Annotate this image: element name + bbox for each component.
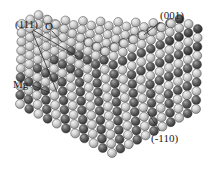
oxygen-sphere bbox=[98, 144, 107, 153]
magnesium-sphere bbox=[121, 103, 130, 112]
magnesium-sphere bbox=[174, 59, 183, 68]
magnesium-sphere bbox=[118, 48, 127, 57]
magnesium-sphere bbox=[193, 51, 202, 60]
oxygen-sphere bbox=[165, 54, 174, 63]
oxygen-sphere bbox=[148, 108, 157, 117]
oxygen-sphere bbox=[193, 42, 202, 51]
oxygen-sphere bbox=[146, 89, 155, 98]
magnesium-sphere bbox=[104, 22, 113, 31]
magnesium-sphere bbox=[148, 27, 157, 36]
oxygen-sphere bbox=[155, 58, 164, 67]
magnesium-sphere bbox=[42, 51, 51, 60]
label-ion-magnesium: Mg bbox=[13, 79, 28, 90]
magnesium-sphere bbox=[83, 64, 92, 73]
oxygen-sphere bbox=[146, 44, 155, 53]
oxygen-sphere bbox=[76, 87, 85, 96]
magnesium-sphere bbox=[105, 121, 114, 130]
magnesium-sphere bbox=[88, 120, 97, 129]
oxygen-sphere bbox=[97, 125, 106, 134]
magnesium-sphere bbox=[138, 94, 147, 103]
magnesium-sphere bbox=[175, 24, 184, 33]
oxygen-sphere bbox=[146, 80, 155, 89]
magnesium-sphere bbox=[94, 34, 103, 43]
magnesium-sphere bbox=[155, 67, 164, 76]
magnesium-sphere bbox=[104, 111, 113, 120]
magnesium-sphere bbox=[42, 42, 51, 51]
magnesium-sphere bbox=[96, 17, 105, 26]
magnesium-sphere bbox=[86, 102, 95, 111]
magnesium-sphere bbox=[122, 22, 131, 31]
magnesium-sphere bbox=[32, 91, 41, 100]
magnesium-sphere bbox=[114, 18, 123, 27]
magnesium-sphere bbox=[110, 43, 119, 52]
oxygen-sphere bbox=[75, 51, 84, 60]
magnesium-sphere bbox=[106, 130, 115, 139]
oxygen-sphere bbox=[128, 80, 137, 89]
oxygen-sphere bbox=[165, 36, 174, 45]
oxygen-sphere bbox=[155, 76, 164, 85]
oxygen-sphere bbox=[113, 107, 122, 116]
magnesium-sphere bbox=[174, 104, 183, 113]
oxygen-sphere bbox=[91, 60, 100, 69]
oxygen-sphere bbox=[133, 135, 142, 144]
magnesium-sphere bbox=[86, 30, 95, 39]
oxygen-sphere bbox=[41, 69, 50, 78]
magnesium-sphere bbox=[91, 51, 100, 60]
magnesium-sphere bbox=[123, 121, 132, 130]
magnesium-sphere bbox=[17, 46, 26, 55]
magnesium-sphere bbox=[139, 103, 148, 112]
magnesium-sphere bbox=[140, 112, 149, 121]
magnesium-sphere bbox=[79, 17, 88, 26]
oxygen-sphere bbox=[115, 135, 124, 144]
magnesium-sphere bbox=[122, 112, 131, 121]
magnesium-sphere bbox=[173, 95, 182, 104]
label-plane-111: (111) bbox=[15, 19, 38, 30]
magnesium-sphere bbox=[88, 129, 97, 138]
magnesium-sphere bbox=[33, 73, 42, 82]
oxygen-sphere bbox=[182, 100, 191, 109]
magnesium-sphere bbox=[61, 16, 70, 25]
magnesium-sphere bbox=[70, 120, 79, 129]
magnesium-sphere bbox=[67, 38, 76, 47]
magnesium-sphere bbox=[124, 130, 133, 139]
magnesium-sphere bbox=[59, 33, 68, 42]
magnesium-sphere bbox=[87, 21, 96, 30]
magnesium-sphere bbox=[124, 140, 133, 149]
magnesium-sphere bbox=[77, 25, 86, 34]
oxygen-sphere bbox=[132, 126, 141, 135]
magnesium-sphere bbox=[119, 75, 128, 84]
oxygen-sphere bbox=[183, 109, 192, 118]
magnesium-sphere bbox=[192, 69, 201, 78]
magnesium-sphere bbox=[33, 46, 42, 55]
oxygen-sphere bbox=[42, 96, 51, 105]
magnesium-sphere bbox=[158, 122, 167, 131]
oxygen-sphere bbox=[77, 97, 86, 106]
oxygen-sphere bbox=[184, 46, 193, 55]
oxygen-sphere bbox=[175, 32, 184, 41]
magnesium-sphere bbox=[155, 85, 164, 94]
oxygen-sphere bbox=[192, 96, 201, 105]
magnesium-sphere bbox=[58, 51, 67, 60]
oxygen-sphere bbox=[94, 88, 103, 97]
oxygen-sphere bbox=[118, 56, 127, 65]
magnesium-sphere bbox=[102, 83, 111, 92]
magnesium-sphere bbox=[84, 83, 93, 92]
magnesium-sphere bbox=[184, 37, 193, 46]
oxygen-sphere bbox=[193, 24, 202, 33]
oxygen-sphere bbox=[165, 99, 174, 108]
oxygen-sphere bbox=[110, 79, 119, 88]
magnesium-sphere bbox=[184, 20, 193, 29]
oxygen-sphere bbox=[67, 46, 76, 55]
magnesium-sphere bbox=[25, 42, 34, 51]
magnesium-sphere bbox=[101, 47, 110, 56]
magnesium-sphere bbox=[174, 77, 183, 86]
magnesium-sphere bbox=[25, 60, 34, 69]
magnesium-sphere bbox=[87, 111, 96, 120]
oxygen-sphere bbox=[43, 114, 52, 123]
magnesium-sphere bbox=[50, 37, 59, 46]
magnesium-sphere bbox=[58, 42, 67, 51]
magnesium-sphere bbox=[104, 102, 113, 111]
magnesium-sphere bbox=[33, 100, 42, 109]
magnesium-sphere bbox=[50, 91, 59, 100]
magnesium-sphere bbox=[25, 51, 34, 60]
